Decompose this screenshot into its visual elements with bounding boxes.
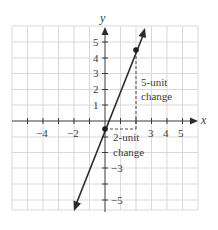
point-upper	[133, 47, 139, 53]
x-tick-label: 3	[148, 127, 154, 139]
y-tick-label: 2	[93, 83, 99, 95]
x-tick-label: −2	[67, 127, 79, 139]
y-axis-arrow-icon	[102, 27, 109, 35]
rise-annotation-line1: 5-unit	[141, 76, 167, 88]
run-annotation-line2: change	[113, 146, 144, 158]
x-axis-arrow-icon	[190, 118, 198, 125]
x-tick-label: −4	[36, 127, 48, 139]
y-tick-label: 4	[93, 52, 99, 64]
coordinate-plane: y x −4 −2 3 4 5 5 4 3 2 1 −3 −5 5-unit c…	[0, 0, 218, 230]
y-tick-label: 5	[93, 36, 99, 48]
x-tick-label: 4	[163, 127, 169, 139]
y-tick-label: 3	[93, 67, 99, 79]
point-origin	[102, 126, 108, 132]
line-arrow-down-icon	[74, 201, 82, 212]
x-axis-label: x	[200, 113, 207, 127]
run-annotation-line1: 2-unit	[113, 131, 139, 143]
x-tick-label: 5	[178, 127, 184, 139]
y-tick-label: −5	[111, 194, 123, 206]
y-tick-label: −3	[111, 162, 123, 174]
rise-annotation-line2: change	[141, 90, 172, 102]
y-axis-label: y	[99, 11, 106, 25]
axes	[12, 30, 196, 212]
line-arrow-up-icon	[139, 28, 147, 38]
y-tick-label: 1	[93, 99, 99, 111]
graph-line	[75, 33, 144, 207]
